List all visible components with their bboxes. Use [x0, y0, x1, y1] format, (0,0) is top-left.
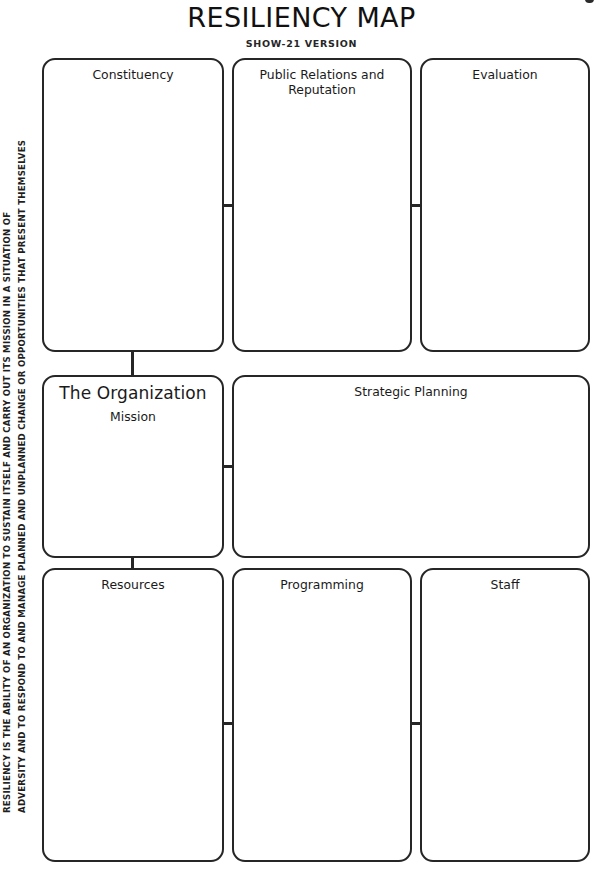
- box-the-organization-label: The Organization: [44, 383, 222, 404]
- box-public-relations[interactable]: Public Relations and Reputation: [232, 58, 412, 352]
- definition-line-1: RESILIENCY IS THE ABILITY OF AN ORGANIZA…: [0, 212, 15, 871]
- connector-public-relations-to-evaluation: [410, 204, 422, 207]
- page-title: RESILIENCY MAP: [0, 2, 603, 34]
- box-strategic-planning-label: Strategic Planning: [234, 384, 588, 399]
- box-strategic-planning[interactable]: Strategic Planning: [232, 375, 590, 558]
- box-programming-label: Programming: [234, 577, 410, 592]
- connector-constituency-to-organization: [131, 350, 134, 377]
- box-evaluation-label: Evaluation: [422, 67, 588, 82]
- box-mission-label: Mission: [44, 409, 222, 424]
- box-evaluation[interactable]: Evaluation: [420, 58, 590, 352]
- connector-organization-to-strategic-planning: [222, 465, 234, 468]
- connector-resources-to-programming: [222, 722, 234, 725]
- connector-programming-to-staff: [410, 722, 422, 725]
- resiliency-definition: RESILIENCY IS THE ABILITY OF AN ORGANIZA…: [0, 0, 34, 871]
- box-staff[interactable]: Staff: [420, 568, 590, 862]
- box-public-relations-label: Public Relations and Reputation: [234, 67, 410, 97]
- connector-constituency-to-public-relations: [222, 204, 234, 207]
- box-resources-label: Resources: [44, 577, 222, 592]
- box-resources[interactable]: Resources: [42, 568, 224, 862]
- box-constituency-label: Constituency: [44, 67, 222, 82]
- box-staff-label: Staff: [422, 577, 588, 592]
- box-constituency[interactable]: Constituency: [42, 58, 224, 352]
- box-programming[interactable]: Programming: [232, 568, 412, 862]
- definition-line-2: ADVERSITY AND TO RESPOND TO AND MANAGE P…: [15, 140, 30, 871]
- box-the-organization[interactable]: The Organization Mission: [42, 375, 224, 558]
- version-subtitle: SHOW-21 VERSION: [0, 38, 603, 50]
